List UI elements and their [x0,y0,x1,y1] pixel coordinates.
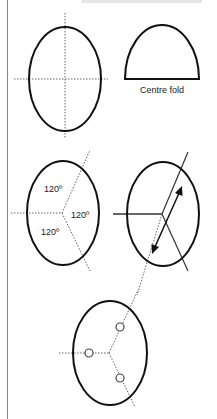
point-circle-lower [116,374,124,382]
double-arrow-icon [152,186,183,254]
angle-label-right: 120º [71,210,90,220]
panel-oval-fold-arrow [113,152,199,295]
centre-fold-caption: Centre fold [140,85,184,95]
panel-oval-thirds: 120º 120º 120º [11,150,99,271]
panel-whole-oval [14,13,108,138]
half-oval-shape [125,25,199,79]
dotted-line-upper-right [109,290,138,353]
panel-oval-thirds-points [59,290,147,407]
panel-half-oval: Centre fold [125,25,199,95]
point-circle-upper [116,323,124,331]
point-circle-left [85,349,93,357]
angle-label-bottom: 120º [41,227,60,237]
fold-diagram: Centre fold 120º 120º 120º [0,0,217,419]
angle-label-top: 120º [44,184,63,194]
dotted-line-upper-right [62,150,90,213]
